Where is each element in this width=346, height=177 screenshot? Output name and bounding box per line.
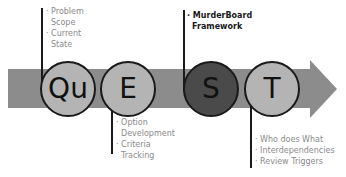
- stage-s: S: [183, 61, 239, 117]
- note-qu-line: · Current: [46, 28, 84, 39]
- note-s-line: · MurderBoard: [187, 10, 252, 21]
- note-qu-line: State: [46, 39, 84, 50]
- note-s: · MurderBoard Framework: [187, 10, 252, 32]
- note-qu-line: Scope: [46, 17, 84, 28]
- stage-e: E: [100, 61, 156, 117]
- note-s-line: Framework: [187, 21, 252, 32]
- note-t-line: · Who does What: [255, 134, 335, 145]
- quest-diagram: Qu E S T · Problem Scope · Current State…: [0, 0, 346, 177]
- stage-qu: Qu: [40, 61, 96, 117]
- stage-t: T: [244, 61, 300, 117]
- stage-s-letter: S: [202, 75, 220, 103]
- note-t-line: · Interdependencies: [255, 145, 335, 156]
- note-t: · Who does What · Interdependencies · Re…: [255, 134, 335, 167]
- process-arrow-head: [310, 60, 337, 118]
- note-e: · Option Development · Criteria Tracking: [116, 117, 175, 161]
- note-qu: · Problem Scope · Current State: [46, 6, 84, 50]
- note-e-line: Development: [116, 128, 175, 139]
- stage-e-letter: E: [119, 75, 137, 103]
- note-t-line: · Review Triggers: [255, 156, 335, 167]
- note-e-line: Tracking: [116, 150, 175, 161]
- note-qu-line: · Problem: [46, 6, 84, 17]
- stage-qu-letter: Qu: [48, 75, 88, 103]
- note-e-line: · Criteria: [116, 139, 175, 150]
- note-e-line: · Option: [116, 117, 175, 128]
- stage-t-letter: T: [263, 75, 280, 103]
